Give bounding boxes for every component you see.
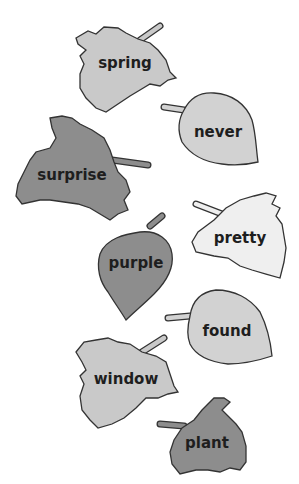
- leaf-stem-fill: [140, 26, 160, 40]
- leaf-stem-fill: [164, 107, 184, 110]
- leaf-word: spring: [98, 54, 152, 72]
- leaf-word: window: [94, 370, 159, 388]
- leaf-word: pretty: [214, 229, 267, 247]
- leaf-word: never: [194, 123, 243, 141]
- leaf-surprise[interactable]: surprise: [16, 116, 148, 220]
- leaf-pretty[interactable]: pretty: [192, 193, 286, 278]
- leaf-spring[interactable]: spring: [76, 26, 176, 112]
- leaf-purple[interactable]: purple: [98, 216, 172, 320]
- leaf-word: surprise: [37, 166, 106, 184]
- leaf-window[interactable]: window: [76, 338, 178, 428]
- leaf-stem-fill: [160, 424, 184, 426]
- leaf-never[interactable]: never: [164, 93, 258, 165]
- leaf-word: plant: [185, 434, 229, 452]
- leaf-stem-fill: [142, 338, 164, 352]
- leaf-found[interactable]: found: [168, 290, 272, 364]
- leaf-word: found: [203, 322, 252, 340]
- leaf-words-canvas: spring never surprise pretty purple foun…: [0, 0, 299, 484]
- leaf-plant[interactable]: plant: [160, 398, 246, 474]
- leaf-shape: [98, 232, 172, 320]
- leaf-word: purple: [109, 254, 164, 272]
- leaf-stem-fill: [168, 316, 190, 318]
